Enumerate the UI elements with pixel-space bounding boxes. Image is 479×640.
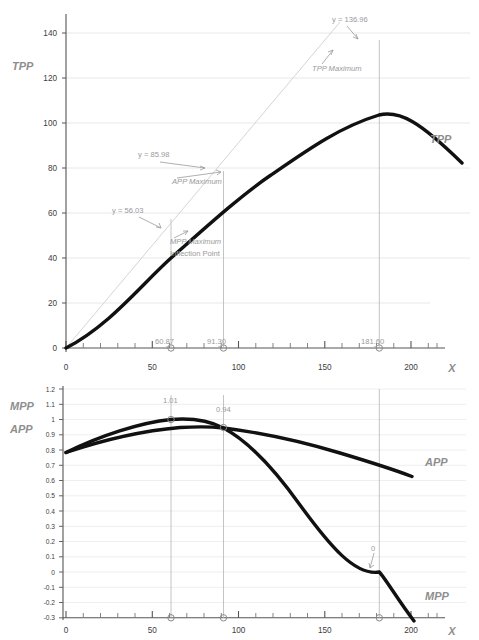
app-curve — [66, 427, 412, 477]
mpp-xtick-200: 200 — [404, 626, 418, 635]
mpp-ytick-0_5: 0.5 — [46, 492, 55, 499]
tpp-xtick-150: 150 — [318, 363, 332, 372]
mpp-ytick-1_2: 1.2 — [46, 386, 55, 393]
tpp-ytick-60: 60 — [48, 209, 58, 218]
mpp-max-value-label: y = 56.03 — [112, 206, 143, 215]
tpp-ytick-20: 20 — [48, 299, 58, 308]
mpp-ytick-n0_2: -0.2 — [44, 599, 56, 606]
tpp-xtick-200: 200 — [404, 363, 418, 372]
tpp-xtick-0: 0 — [64, 363, 69, 372]
tpp-ytick-40: 40 — [48, 254, 58, 263]
tpp-max-label-arrow — [322, 50, 333, 64]
mpp-ytick-0_1: 0.1 — [46, 553, 55, 560]
chart-svg: 140 120 100 80 60 40 20 0 TPP — [0, 0, 479, 640]
tpp-xmarker-9130: 91.30 — [207, 337, 226, 346]
app-max-value-arrow — [160, 162, 205, 168]
tpp-ytick-80: 80 — [48, 164, 58, 173]
mpp-ytick-0_4: 0.4 — [46, 508, 55, 515]
mpp-point-markers — [168, 416, 383, 621]
mpp-x-axis-label: X — [447, 625, 456, 637]
tpp-curve-label: TPP — [430, 133, 452, 145]
tpp-xmarker-6087: 60.87 — [155, 337, 174, 346]
mpp-peak-value-label: 1.01 — [163, 396, 178, 405]
mpp-xtick-0: 0 — [64, 626, 69, 635]
tpp-ytick-120: 120 — [43, 74, 57, 83]
tpp-x-axis-label: X — [447, 362, 456, 374]
tpp-ytick-140: 140 — [43, 29, 57, 38]
app-max-value-label: y = 85.98 — [138, 150, 169, 159]
tpp-xtick-50: 50 — [148, 363, 158, 372]
app-y-axis-label: APP — [9, 423, 33, 435]
mpp-app-panel: 1.2 1.1 1 0.9 0.8 0.7 0.6 0.5 0.4 0.3 0.… — [9, 386, 466, 638]
tpp-y-ticks — [62, 33, 66, 348]
tpp-marker-lines — [171, 40, 379, 348]
tpp-curve — [66, 114, 462, 348]
mpp-max-label: MPP Maximum — [170, 237, 221, 246]
mpp-ytick-0_9: 0.9 — [46, 431, 55, 438]
app-peak-value-label: 0.94 — [216, 405, 231, 414]
mpp-ytick-0_7: 0.7 — [46, 462, 55, 469]
tpp-gridlines — [66, 33, 470, 303]
app-curve-label: APP — [424, 456, 448, 468]
mpp-ytick-0_6: 0.6 — [46, 477, 55, 484]
mpp-x-minor-ticks — [83, 613, 437, 618]
tpp-max-label: TPP Maximum — [312, 64, 362, 73]
mpp-ytick-1: 1 — [51, 416, 55, 423]
mpp-ytick-0_2: 0.2 — [46, 538, 55, 545]
mpp-ytick-0_8: 0.8 — [46, 447, 55, 454]
mpp-ytick-0: 0 — [51, 569, 55, 576]
tpp-max-value-label: y = 136.96 — [332, 15, 368, 24]
tpp-ytick-0: 0 — [52, 344, 57, 353]
mpp-ytick-n0_3: -0.3 — [44, 614, 56, 621]
tpp-ytick-100: 100 — [43, 119, 57, 128]
mpp-max-value-arrow — [139, 217, 161, 228]
mpp-curve — [66, 419, 414, 621]
tpp-xtick-100: 100 — [232, 363, 246, 372]
mpp-ytick-n0_1: -0.1 — [44, 584, 56, 591]
mpp-zero-value-label: 0 — [371, 544, 375, 553]
mpp-xtick-100: 100 — [232, 626, 246, 635]
mpp-ytick-0_3: 0.3 — [46, 523, 55, 530]
mpp-gridlines — [63, 389, 466, 603]
tpp-panel: 140 120 100 80 60 40 20 0 TPP — [12, 14, 470, 374]
mpp-y-axis-label: MPP — [10, 400, 35, 412]
mpp-y-ticks — [59, 389, 63, 618]
tpp-y-axis-label: TPP — [12, 60, 34, 72]
mpp-marker-lines — [171, 389, 379, 618]
production-function-figure: 140 120 100 80 60 40 20 0 TPP — [0, 0, 479, 640]
mpp-xtick-150: 150 — [318, 626, 332, 635]
mpp-xtick-50: 50 — [148, 626, 158, 635]
mpp-ytick-1_1: 1.1 — [46, 401, 55, 408]
mpp-curve-label: MPP — [425, 590, 450, 602]
tpp-marker-pointers — [166, 345, 379, 347]
inflection-point-label: Inflection Point — [170, 249, 221, 258]
app-max-label: APP Maximum — [171, 177, 222, 186]
tpp-xmarker-18160: 181.60 — [361, 337, 384, 346]
